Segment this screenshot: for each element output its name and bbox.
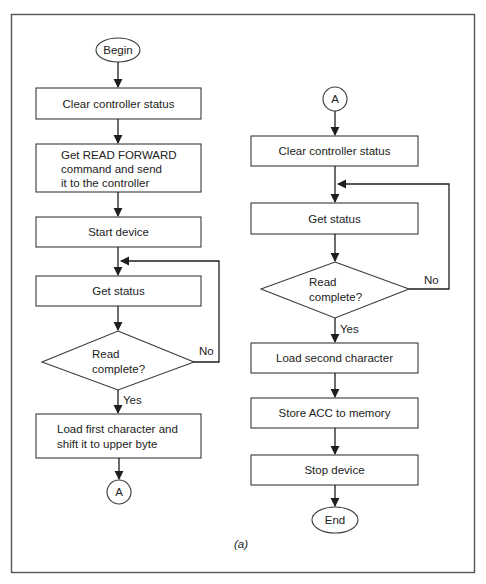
decision-label-line-1: Read — [309, 276, 337, 288]
process-load-second-character: Load second character — [251, 343, 418, 373]
yes-label-right: Yes — [340, 323, 359, 335]
process-label: Get status — [308, 213, 361, 225]
no-label-left: No — [199, 345, 214, 357]
end-terminator: End — [312, 507, 358, 533]
process-label: Start device — [88, 226, 149, 238]
process-label-line-1: Load first character and — [57, 423, 178, 435]
decision-read-complete-right: Read complete? — [261, 262, 409, 318]
process-label: Clear controller status — [63, 98, 175, 110]
begin-terminator: Begin — [96, 38, 140, 62]
process-get-status-right: Get status — [251, 203, 418, 234]
process-stop-device: Stop device — [251, 455, 418, 485]
connector-a-left: A — [107, 480, 131, 504]
decision-label-line-2: complete? — [309, 291, 362, 303]
process-label: Load second character — [276, 352, 393, 364]
connector-a-right: A — [323, 87, 347, 111]
process-get-status-left: Get status — [36, 276, 201, 306]
process-label-line-1: Get READ FORWARD — [61, 149, 177, 161]
process-get-read-forward: Get READ FORWARD command and send it to … — [36, 144, 201, 192]
decision-read-complete-left: Read complete? — [42, 331, 194, 390]
right-flow: A Clear controller status Get status Rea… — [251, 87, 449, 533]
decision-label-line-2: complete? — [92, 363, 145, 375]
process-label-line-2: command and send — [61, 163, 162, 175]
flowchart-figure: Begin Clear controller status Get READ F… — [0, 0, 486, 584]
process-label-line-2: shift it to upper byte — [57, 438, 157, 450]
decision-label-line-1: Read — [92, 348, 120, 360]
begin-label: Begin — [103, 44, 132, 56]
process-store-acc-to-memory: Store ACC to memory — [251, 398, 418, 428]
end-label: End — [325, 514, 345, 526]
process-clear-controller-status-left: Clear controller status — [36, 88, 201, 119]
no-label-right: No — [424, 274, 439, 286]
process-label: Clear controller status — [279, 145, 391, 157]
connector-label: A — [331, 93, 339, 105]
yes-label-left: Yes — [123, 394, 142, 406]
process-start-device: Start device — [36, 217, 201, 247]
process-label: Get status — [92, 285, 145, 297]
process-label-line-3: it to the controller — [61, 177, 149, 189]
process-load-first-character: Load first character and shift it to upp… — [36, 414, 201, 458]
process-label: Stop device — [304, 464, 364, 476]
process-label: Store ACC to memory — [279, 407, 391, 419]
figure-caption: (a) — [234, 538, 248, 550]
process-clear-controller-status-right: Clear controller status — [251, 136, 418, 166]
connector-label: A — [115, 486, 123, 498]
left-flow: Begin Clear controller status Get READ F… — [36, 38, 219, 504]
